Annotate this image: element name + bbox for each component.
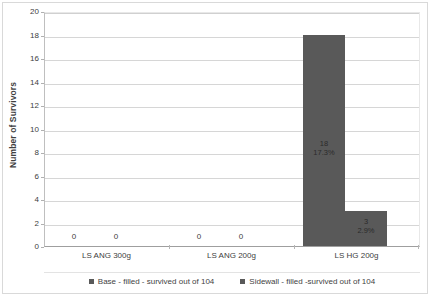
y-tick-label-4: 4 [17, 196, 39, 204]
gridline-8 [45, 154, 419, 155]
legend-swatch-icon [240, 279, 245, 284]
legend-swatch-icon [89, 279, 94, 284]
bar-label-ls-ang-300g-sidewall: 0 [95, 232, 137, 241]
legend-item-base[interactable]: Base - filled - survived out of 104 [89, 277, 215, 286]
x-axis-label-ls-ang-300g: LS ANG 300g [44, 251, 169, 260]
y-tick-label-2: 2 [17, 220, 39, 228]
x-axis-label-ls-ang-200g: LS ANG 200g [169, 251, 294, 260]
gridline-12 [45, 107, 419, 108]
gridline-10 [45, 131, 419, 132]
y-tick-mark-0 [41, 247, 44, 248]
bar-label-ls-hg-200g-sidewall: 3 2.9% [345, 218, 387, 235]
y-tick-label-14: 14 [17, 79, 39, 87]
y-tick-label-12: 12 [17, 102, 39, 110]
chart-legend: Base - filled - survived out of 104 Side… [44, 272, 420, 289]
gridline-18 [45, 37, 419, 38]
y-tick-label-6: 6 [17, 173, 39, 181]
bar-label-ls-ang-200g-sidewall: 0 [220, 232, 262, 241]
plot-area: 18 17.3% 3 2.9% 0 0 0 0 [44, 12, 420, 247]
x-axis-label-ls-hg-200g: LS HG 200g [294, 251, 419, 260]
bar-chart: Number of Survivors 20 18 16 14 12 10 8 … [0, 0, 431, 297]
x-axis-separator-2 [294, 245, 295, 249]
y-tick-label-20: 20 [17, 8, 39, 16]
gridline-16 [45, 60, 419, 61]
y-tick-label-0: 0 [17, 243, 39, 251]
bar-label-ls-ang-200g-base: 0 [178, 232, 220, 241]
y-tick-label-8: 8 [17, 149, 39, 157]
y-tick-label-18: 18 [17, 32, 39, 40]
bar-label-percent: 17.3% [303, 149, 345, 158]
gridline-20 [45, 13, 419, 14]
legend-label-sidewall: Sidewall - filled -survived out of 104 [249, 277, 375, 286]
x-axis-separator-end [418, 245, 419, 249]
bar-label-ls-hg-200g-base: 18 17.3% [303, 140, 345, 157]
y-tick-label-16: 16 [17, 55, 39, 63]
gridline-4 [45, 201, 419, 202]
gridline-6 [45, 178, 419, 179]
bar-label-percent: 2.9% [345, 227, 387, 236]
legend-label-base: Base - filled - survived out of 104 [98, 277, 215, 286]
legend-item-sidewall[interactable]: Sidewall - filled -survived out of 104 [240, 277, 375, 286]
x-axis-separator-1 [169, 245, 170, 249]
gridline-14 [45, 84, 419, 85]
bar-label-ls-ang-300g-base: 0 [53, 232, 95, 241]
y-tick-label-10: 10 [17, 126, 39, 134]
